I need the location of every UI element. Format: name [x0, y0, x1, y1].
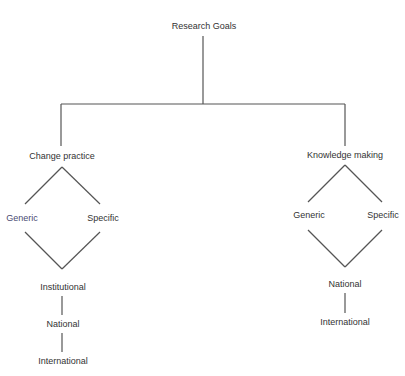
left-level-institutional: Institutional: [40, 283, 86, 292]
right-diamond-upper-right: [345, 165, 382, 202]
left-level-national: National: [46, 320, 79, 329]
left-diamond-upper-left: [25, 167, 62, 204]
right-diamond-lower-left: [308, 230, 345, 267]
left-diamond-upper-right: [62, 167, 100, 204]
right-option-specific: Specific: [367, 211, 399, 220]
branch-knowledge-making: Knowledge making: [307, 151, 383, 160]
left-option-specific: Specific: [87, 214, 119, 223]
research-goals-diagram: Research Goals Change practice Generic S…: [0, 0, 405, 376]
root-node: Research Goals: [172, 22, 237, 31]
right-level-international: International: [320, 318, 370, 327]
right-level-national: National: [328, 280, 361, 289]
branch-change-practice: Change practice: [29, 152, 95, 161]
left-option-generic: Generic: [6, 214, 38, 223]
right-option-generic: Generic: [293, 211, 325, 220]
left-level-international: International: [38, 357, 88, 366]
left-diamond-lower-right: [62, 232, 100, 269]
right-diamond-upper-left: [308, 165, 345, 202]
left-diamond-lower-left: [25, 232, 62, 269]
right-diamond-lower-right: [345, 230, 382, 267]
